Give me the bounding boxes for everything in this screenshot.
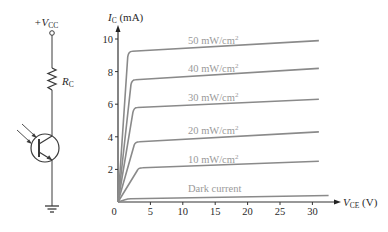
- curve-label: 50 mW/cm2: [188, 34, 239, 46]
- ground-icon: [45, 206, 59, 212]
- x-tick-label: 20: [242, 206, 253, 217]
- x-axis-arrow-icon: [334, 200, 341, 205]
- y-tick-label: 4: [108, 132, 114, 143]
- curve-label: Dark current: [188, 183, 241, 194]
- x-tick-label: 15: [210, 206, 221, 217]
- curve-label: 10 mW/cm2: [188, 153, 239, 165]
- x-tick-label: 25: [275, 206, 286, 217]
- y-tick-label: 6: [108, 99, 113, 110]
- vcc-label: +VCC: [34, 16, 58, 30]
- resistor-icon: [48, 68, 56, 90]
- rc-label: RC: [61, 75, 74, 89]
- x-tick-label: 5: [148, 206, 153, 217]
- light-rays-icon: [17, 124, 37, 144]
- curve-label: 20 mW/cm2: [188, 124, 239, 136]
- x-tick-label: 30: [307, 206, 318, 217]
- x-tick-label: 0: [111, 206, 116, 217]
- curve-dark: [118, 195, 329, 202]
- y-tick-label: 2: [108, 164, 113, 175]
- ic-vce-chart: 246810051015202530 50 mW/cm240 mW/cm230 …: [103, 11, 378, 217]
- curve-label: 30 mW/cm2: [188, 91, 239, 103]
- circuit-diagram: +VCC RC: [17, 16, 74, 212]
- curve-labels: 50 mW/cm240 mW/cm230 mW/cm220 mW/cm210 m…: [188, 34, 241, 194]
- phototransistor-icon: [31, 134, 59, 162]
- figure-canvas: +VCC RC: [0, 0, 388, 232]
- x-axis-label: VCE (V): [343, 196, 378, 210]
- y-tick-label: 10: [103, 34, 114, 45]
- curve-label: 40 mW/cm2: [188, 62, 239, 74]
- y-tick-label: 8: [108, 67, 113, 78]
- y-axis-label: IC (mA): [107, 11, 144, 25]
- supply-terminal-icon: [50, 31, 55, 36]
- x-tick-label: 10: [178, 206, 189, 217]
- y-axis-arrow-icon: [116, 25, 121, 32]
- phototransistor-figure: +VCC RC: [0, 0, 388, 232]
